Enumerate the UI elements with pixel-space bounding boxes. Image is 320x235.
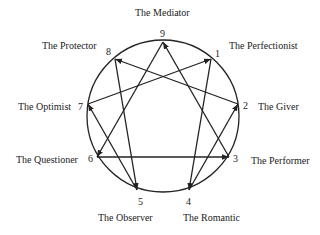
point-number-7: 7 [78, 101, 83, 113]
label-performer: The Performer [251, 155, 310, 167]
point-number-8: 8 [106, 46, 111, 58]
label-questioner: The Questioner [16, 154, 78, 166]
label-observer: The Observer [98, 212, 153, 224]
label-perfectionist: The Perfectionist [229, 40, 298, 52]
point-number-5: 5 [138, 196, 143, 208]
point-number-9: 9 [160, 28, 165, 40]
label-mediator: The Mediator [135, 7, 190, 19]
arrow-9-to-6 [97, 42, 163, 157]
enneagram-circle [87, 40, 239, 192]
label-optimist: The Optimist [18, 101, 71, 113]
label-protector: The Protector [42, 40, 97, 52]
point-number-4: 4 [186, 196, 191, 208]
point-number-3: 3 [233, 153, 238, 165]
label-giver: The Giver [258, 101, 299, 113]
label-romantic: The Romantic [183, 212, 240, 224]
point-number-2: 2 [243, 100, 248, 112]
point-number-1: 1 [215, 48, 220, 60]
point-number-6: 6 [88, 153, 93, 165]
